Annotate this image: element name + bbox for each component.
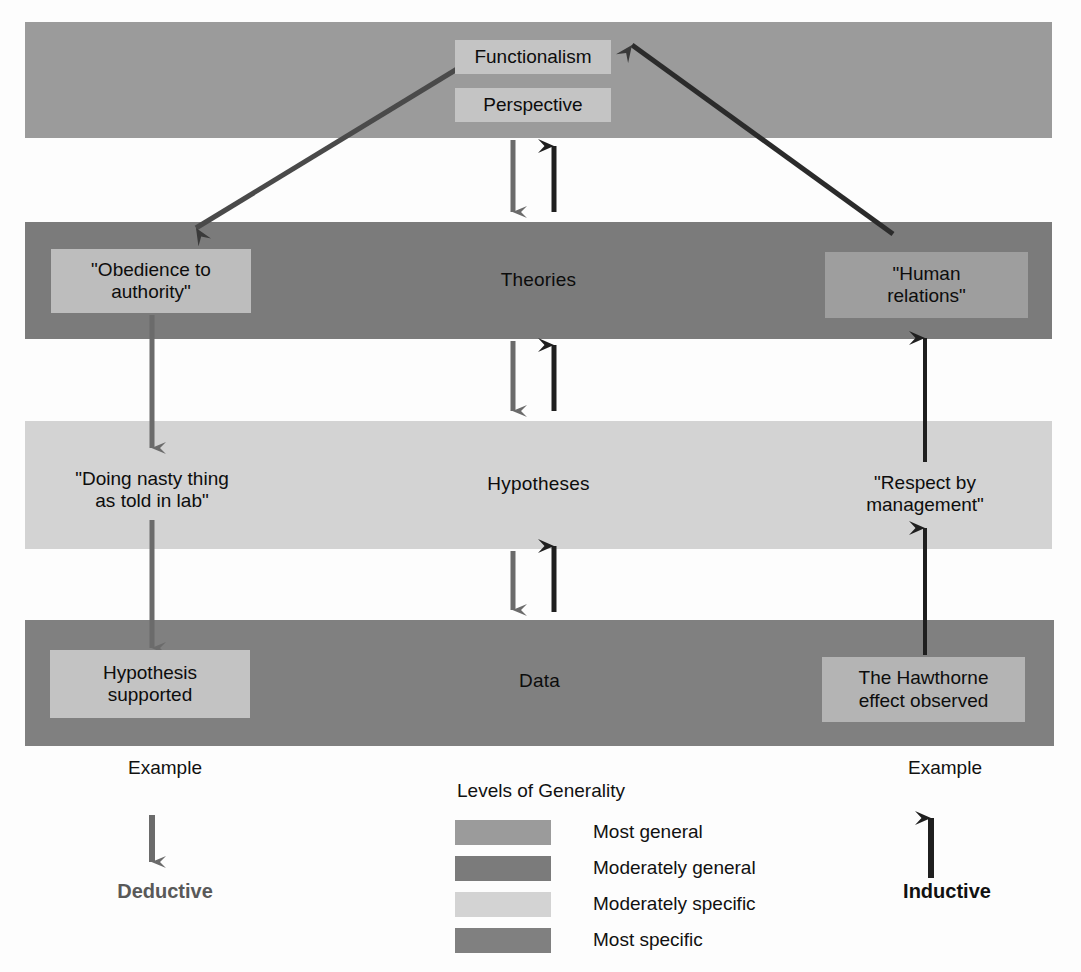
caption-example-right: Example — [885, 757, 1005, 779]
box-respect-by-management[interactable]: "Respect bymanagement" — [830, 466, 1020, 522]
legend-swatch-0 — [455, 820, 551, 845]
legend-item-1: Moderately general — [455, 850, 875, 886]
box-hawthorne-effect-observed[interactable]: The Hawthorneeffect observed — [822, 657, 1025, 722]
box-human-relations[interactable]: "Humanrelations" — [825, 252, 1028, 318]
box-obedience-to-authority[interactable]: "Obedience toauthority" — [51, 249, 251, 313]
box-functionalism[interactable]: Functionalism — [455, 40, 611, 74]
legend-label-2: Moderately specific — [593, 893, 756, 915]
legend-swatch-3 — [455, 928, 551, 953]
legend-item-0: Most general — [455, 814, 875, 850]
legend-swatch-1 — [455, 856, 551, 881]
box-hypothesis-supported[interactable]: Hypothesissupported — [50, 650, 250, 718]
legend-title: Levels of Generality — [455, 780, 875, 802]
caption-example-left: Example — [105, 757, 225, 779]
label-deductive: Deductive — [100, 880, 230, 903]
legend-label-1: Moderately general — [593, 857, 756, 879]
legend-item-2: Moderately specific — [455, 886, 875, 922]
label-inductive: Inductive — [882, 880, 1012, 903]
legend-rows: Most generalModerately generalModerately… — [455, 814, 875, 958]
legend-label-0: Most general — [593, 821, 703, 843]
box-doing-nasty-thing[interactable]: "Doing nasty thingas told in lab" — [48, 462, 256, 518]
legend-label-3: Most specific — [593, 929, 703, 951]
diagram-canvas: Theories Hypotheses Data — [0, 0, 1081, 972]
legend-item-3: Most specific — [455, 922, 875, 958]
box-perspective[interactable]: Perspective — [455, 88, 611, 122]
legend-swatch-2 — [455, 892, 551, 917]
legend: Levels of Generality Most generalModerat… — [455, 780, 875, 958]
